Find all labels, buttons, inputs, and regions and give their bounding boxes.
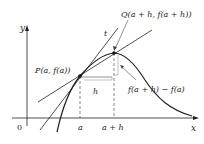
tangent-label: t — [104, 29, 108, 38]
y-axis-arrow-icon — [25, 25, 29, 31]
tick-a-label: a — [78, 123, 83, 132]
x-axis-label: x — [191, 123, 196, 133]
rise-label: f(a + h) − f(a) — [127, 85, 185, 94]
q-leader-line — [115, 20, 128, 49]
y-axis-label: y — [19, 23, 26, 33]
tick-a-plus-h-label: a + h — [102, 123, 124, 132]
tangent-line — [40, 28, 118, 130]
q-leader-arrow-icon — [113, 46, 117, 51]
origin-label: 0 — [17, 123, 22, 132]
secant-tangent-diagram: y x 0 P(a, f(a)) Q(a + h, f(a + h)) t h … — [0, 0, 204, 144]
point-q — [112, 51, 116, 55]
point-p-label: P(a, f(a)) — [34, 66, 70, 75]
rise-leader-line — [121, 66, 136, 80]
point-q-label: Q(a + h, f(a + h)) — [121, 10, 192, 19]
point-p — [78, 74, 82, 78]
h-label: h — [93, 87, 98, 96]
x-axis-arrow-icon — [193, 116, 199, 120]
